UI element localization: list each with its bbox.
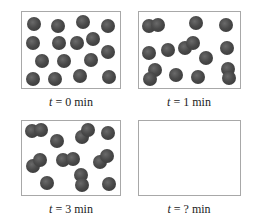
sphere-particle-icon xyxy=(27,17,41,31)
sphere-particle-icon xyxy=(33,153,47,167)
sphere-particle-icon xyxy=(40,176,54,190)
sphere-particle-icon xyxy=(186,36,200,50)
sphere-particle-icon xyxy=(151,18,165,32)
label-t0-eq: = xyxy=(52,95,65,109)
sphere-particle-icon xyxy=(66,152,80,166)
sphere-particle-icon xyxy=(100,149,114,163)
sphere-particle-icon xyxy=(34,123,48,137)
panel-t-unknown xyxy=(138,120,241,196)
sphere-particle-icon xyxy=(161,43,175,57)
sphere-particle-icon xyxy=(189,16,203,30)
sphere-particle-icon xyxy=(101,45,115,59)
sphere-particle-icon xyxy=(143,72,157,86)
sphere-particle-icon xyxy=(75,178,89,192)
sphere-particle-icon xyxy=(70,36,84,50)
label-t0-value: 0 min xyxy=(65,95,93,109)
label-t1-value: 1 min xyxy=(183,95,211,109)
sphere-particle-icon xyxy=(73,69,87,83)
sphere-particle-icon xyxy=(219,18,233,32)
panel-t1 xyxy=(138,11,241,89)
label-t3-value: 3 min xyxy=(65,202,93,216)
sphere-particle-icon xyxy=(48,72,62,86)
label-t-unknown-value: ? min xyxy=(184,202,211,216)
sphere-particle-icon xyxy=(51,19,65,33)
sphere-particle-icon xyxy=(220,41,234,55)
label-t-unknown: t = ? min xyxy=(167,202,210,217)
label-t3: t = 3 min xyxy=(49,202,93,217)
sphere-particle-icon xyxy=(101,126,115,140)
sphere-particle-icon xyxy=(102,177,116,191)
sphere-particle-icon xyxy=(57,54,71,68)
label-t-unknown-eq: = xyxy=(171,202,184,216)
sphere-particle-icon xyxy=(81,123,95,137)
sphere-particle-icon xyxy=(26,72,40,86)
label-t0: t = 0 min xyxy=(49,95,93,110)
panel-t0 xyxy=(21,11,121,89)
sphere-particle-icon xyxy=(86,32,100,46)
sphere-particle-icon xyxy=(52,36,66,50)
panel-t3 xyxy=(21,120,121,196)
sphere-particle-icon xyxy=(50,134,64,148)
sphere-particle-icon xyxy=(199,51,213,65)
sphere-particle-icon xyxy=(142,46,156,60)
sphere-particle-icon xyxy=(35,54,49,68)
sphere-particle-icon xyxy=(102,70,116,84)
sphere-particle-icon xyxy=(222,71,236,85)
sphere-particle-icon xyxy=(101,19,115,33)
sphere-particle-icon xyxy=(84,53,98,67)
sphere-particle-icon xyxy=(169,68,183,82)
sphere-particle-icon xyxy=(191,70,205,84)
sphere-particle-icon xyxy=(26,36,40,50)
label-t1-eq: = xyxy=(170,95,183,109)
label-t3-eq: = xyxy=(52,202,65,216)
label-t1: t = 1 min xyxy=(167,95,211,110)
sphere-particle-icon xyxy=(76,15,90,29)
